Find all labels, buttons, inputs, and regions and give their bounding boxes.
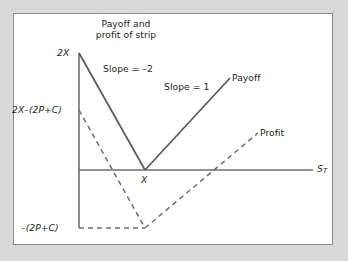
x-axis-label: ST [317,163,327,178]
axis-title-line2: profit of strip [96,29,156,40]
series-label-payoff: Payoff [232,72,261,83]
axis-title: Payoff andprofit of strip [70,18,182,41]
y-tick-label-negative-2p-plus-c: –(2P+C) [21,222,59,233]
profit-line-right-branch [145,133,258,228]
series-label-profit: Profit [260,127,284,138]
annotation-slope-left: Slope = –2 [103,63,153,74]
annotation-slope-right: Slope = 1 [164,81,209,92]
y-tick-label-2x: 2X [57,47,69,58]
profit-line-left-branch [79,110,145,228]
axis-title-line1: Payoff and [102,18,151,29]
y-tick-label-2x-minus-2p-plus-c: 2X–(2P+C) [12,104,62,115]
x-tick-label-strike: X [141,174,147,185]
figure-root: Payoff andprofit of strip 2X 2X–(2P+C) –… [0,0,348,261]
